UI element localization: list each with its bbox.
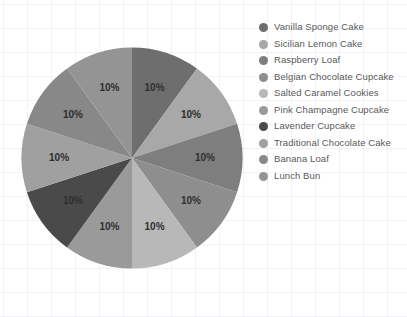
legend-color-swatch-icon [259, 73, 268, 82]
pie-slice-value-label: 10% [99, 82, 119, 93]
legend-color-swatch-icon [259, 56, 268, 65]
pie-slice-value-label: 10% [145, 221, 165, 232]
legend-item-label: Pink Champagne Cupcake [274, 104, 389, 117]
legend-item-label: Traditional Chocolate Cake [274, 137, 391, 150]
legend-item[interactable]: Traditional Chocolate Cake [259, 137, 405, 150]
legend-item[interactable]: Belgian Chocolate Cupcake [259, 71, 405, 84]
legend-item-label: Raspberry Loaf [274, 54, 340, 67]
legend-item-label: Lunch Bun [274, 170, 320, 183]
legend-item-label: Vanilla Sponge Cake [274, 21, 364, 34]
pie-slice-value-label: 10% [181, 109, 201, 120]
legend-item-label: Lavender Cupcake [274, 120, 355, 133]
legend-color-swatch-icon [259, 139, 268, 148]
legend-item[interactable]: Vanilla Sponge Cake [259, 21, 405, 34]
pie-slice-value-label: 10% [49, 152, 69, 163]
legend-color-swatch-icon [259, 106, 268, 115]
legend-item[interactable]: Sicilian Lemon Cake [259, 38, 405, 51]
pie-slice-value-label: 10% [63, 109, 83, 120]
pie-slice-value-label: 10% [63, 195, 83, 206]
legend-color-swatch-icon [259, 122, 268, 131]
legend-item-label: Banana Loaf [274, 153, 329, 166]
pie-slice-value-label: 10% [181, 195, 201, 206]
legend-item[interactable]: Banana Loaf [259, 153, 405, 166]
legend-item[interactable]: Salted Caramel Cookies [259, 87, 405, 100]
pie-chart: 10%10%10%10%10%10%10%10%10%10% [21, 47, 243, 269]
legend-item-label: Belgian Chocolate Cupcake [274, 71, 394, 84]
legend-item[interactable]: Raspberry Loaf [259, 54, 405, 67]
legend-item-label: Salted Caramel Cookies [274, 87, 379, 100]
legend-color-swatch-icon [259, 172, 268, 181]
legend-color-swatch-icon [259, 155, 268, 164]
legend-color-swatch-icon [259, 89, 268, 98]
legend-item[interactable]: Pink Champagne Cupcake [259, 104, 405, 117]
legend-color-swatch-icon [259, 40, 268, 49]
legend-item-label: Sicilian Lemon Cake [274, 38, 363, 51]
legend-item[interactable]: Lavender Cupcake [259, 120, 405, 133]
pie-slice-value-label: 10% [145, 82, 165, 93]
pie-slice-value-label: 10% [99, 221, 119, 232]
chart-legend: Vanilla Sponge CakeSicilian Lemon CakeRa… [259, 21, 405, 186]
legend-item[interactable]: Lunch Bun [259, 170, 405, 183]
pie-slice-value-label: 10% [195, 152, 215, 163]
pie-chart-area: 10%10%10%10%10%10%10%10%10%10% [0, 0, 260, 317]
pie-chart-svg: 10%10%10%10%10%10%10%10%10%10% [21, 47, 243, 269]
legend-color-swatch-icon [259, 23, 268, 32]
